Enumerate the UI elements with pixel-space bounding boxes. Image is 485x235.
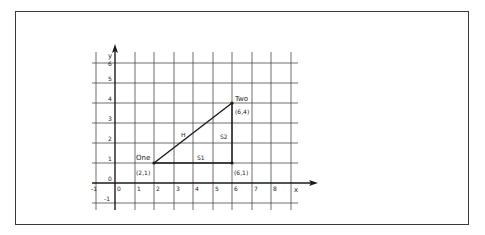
x-tick-label: 8 [273,185,277,192]
x-tick-label: 2 [156,185,160,192]
x-tick-label: -1 [91,185,97,192]
point-corner [230,161,233,164]
y-tick-label: 4 [108,95,112,102]
point-one-name: One [136,154,150,162]
grid-horizontal [92,63,298,203]
segment-h-label: H [181,131,186,138]
segment-s2-label: S2 [220,133,228,140]
point-corner-coords: (6,1) [234,169,248,176]
segment-s1-label: S1 [197,154,205,161]
point-one [152,161,155,164]
point-one-coords: (2,1) [136,169,150,176]
x-tick-label: 4 [195,185,199,192]
y-tick-label: 5 [108,75,112,82]
coordinate-plane: -1 0 1 2 3 4 5 6 7 8 x -1 0 1 2 3 4 5 6 … [0,0,485,235]
y-tick-label: 3 [108,115,112,122]
point-two-name: Two [234,95,248,103]
x-tick-label: 6 [234,185,238,192]
y-tick-labels: -1 0 1 2 3 4 5 6 y [104,52,112,202]
point-two-coords: (6,4) [235,108,249,115]
x-tick-label: 0 [117,185,121,192]
x-axis-label: x [294,186,298,194]
x-tick-label: 1 [137,185,141,192]
x-tick-label: 3 [176,185,180,192]
x-tick-labels: -1 0 1 2 3 4 5 6 7 8 x [91,185,298,194]
y-tick-label: 0 [108,175,112,182]
x-axis [92,180,318,186]
x-tick-label: 7 [254,185,258,192]
y-tick-label: 1 [108,155,112,162]
y-axis-label: y [108,52,112,60]
grid-vertical [96,52,291,210]
y-tick-label: 6 [108,60,112,67]
y-tick-label: -1 [104,195,110,202]
y-tick-label: 2 [108,135,112,142]
point-two [230,101,233,104]
x-tick-label: 5 [215,185,219,192]
